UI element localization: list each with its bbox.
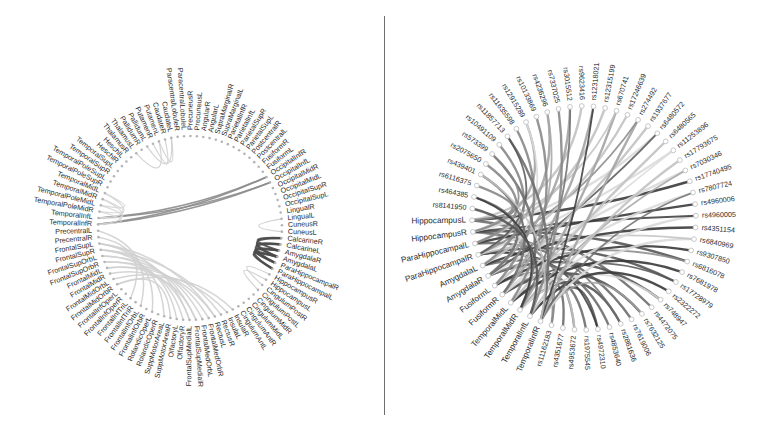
node-dot <box>129 297 132 300</box>
node-circle <box>486 274 491 279</box>
snp-label: rs4960005 <box>702 210 736 220</box>
node-dot <box>135 152 138 155</box>
node-dot <box>261 170 264 173</box>
brain-region-label: HippocampusL <box>411 216 466 226</box>
node-dot <box>208 137 211 140</box>
node-circle <box>603 106 608 111</box>
node-dot <box>146 145 149 148</box>
snp-label: rs7807724 <box>698 178 733 194</box>
node-dot <box>242 301 245 304</box>
node-dot <box>130 156 133 159</box>
node-dot <box>195 319 198 322</box>
node-dot <box>207 317 210 320</box>
node-dot <box>124 293 127 296</box>
snp-label: rs3015512 <box>561 67 574 102</box>
node-dot <box>140 304 143 307</box>
node-circle <box>568 104 573 109</box>
node-circle <box>497 142 502 147</box>
node-circle <box>472 195 477 200</box>
node-circle <box>538 319 543 324</box>
node-circle <box>492 283 497 288</box>
connection-edge <box>98 177 266 224</box>
node-dot <box>232 146 235 149</box>
node-circle <box>500 292 505 297</box>
node-circle <box>556 107 561 112</box>
node-dot <box>100 204 103 207</box>
node-dot <box>98 210 101 213</box>
node-circle <box>636 118 641 123</box>
node-circle <box>584 328 589 333</box>
snp-label: rs4853640 <box>607 332 623 367</box>
node-circle <box>549 323 554 328</box>
node-circle <box>618 321 623 326</box>
snp-label: rs464385 <box>438 185 469 199</box>
node-dot <box>112 278 115 281</box>
node-circle <box>470 206 475 211</box>
node-dot <box>109 180 112 183</box>
node-circle <box>591 104 596 109</box>
node-circle <box>607 325 612 330</box>
connection-edge <box>259 219 282 232</box>
node-dot <box>226 311 229 314</box>
node-circle <box>692 237 697 242</box>
node-dot <box>175 318 178 321</box>
node-dot <box>281 224 284 227</box>
node-circle <box>629 317 634 322</box>
node-dot <box>164 138 167 141</box>
node-dot <box>214 315 217 318</box>
snp-label: rs9623416 <box>577 66 587 100</box>
node-dot <box>272 187 275 190</box>
node-dot <box>134 301 137 304</box>
node-dot <box>157 313 160 316</box>
node-circle <box>545 110 550 115</box>
node-circle <box>490 152 495 157</box>
node-dot <box>271 267 274 270</box>
node-dot <box>140 148 143 151</box>
node-dot <box>169 317 172 320</box>
node-circle <box>655 131 660 136</box>
node-dot <box>269 181 272 184</box>
node-dot <box>278 205 281 208</box>
node-dot <box>109 272 112 275</box>
snp-label: rs12318021 <box>589 62 601 101</box>
node-dot <box>279 211 282 214</box>
node-dot <box>237 305 240 308</box>
panel-divider <box>384 16 385 415</box>
node-dot <box>231 308 234 311</box>
node-dot <box>247 297 250 300</box>
node-circle <box>685 259 690 264</box>
node-dot <box>278 249 281 252</box>
node-circle <box>683 168 688 173</box>
node-dot <box>120 288 123 291</box>
node-dot <box>101 255 104 258</box>
node-circle <box>666 289 671 294</box>
node-circle <box>579 104 584 109</box>
node-dot <box>97 217 100 220</box>
node-circle <box>572 327 577 332</box>
node-dot <box>276 256 279 259</box>
node-circle <box>689 248 694 253</box>
node-circle <box>561 326 566 331</box>
node-circle <box>473 241 478 246</box>
snp-label: rs4972310 <box>595 334 608 369</box>
node-circle <box>693 225 698 230</box>
node-dot <box>99 249 102 252</box>
node-dot <box>116 283 119 286</box>
node-dot <box>280 218 283 221</box>
connection-edge <box>98 182 270 224</box>
node-circle <box>649 305 654 310</box>
node-circle <box>671 148 676 153</box>
node-dot <box>280 237 283 240</box>
node-dot <box>252 293 255 296</box>
node-dot <box>196 135 199 138</box>
node-dot <box>97 223 100 226</box>
node-dot <box>227 143 230 146</box>
node-circle <box>478 172 483 177</box>
node-circle <box>528 314 533 319</box>
node-dot <box>261 284 264 287</box>
region-label: FrontalSupMedialL <box>184 326 193 386</box>
snp-label: rs4351677 <box>550 333 565 368</box>
node-circle <box>505 134 510 139</box>
node-circle <box>534 114 539 119</box>
snp-region-chord-diagram: HippocampusLHippocampusRParaHippocampalL… <box>386 0 780 428</box>
